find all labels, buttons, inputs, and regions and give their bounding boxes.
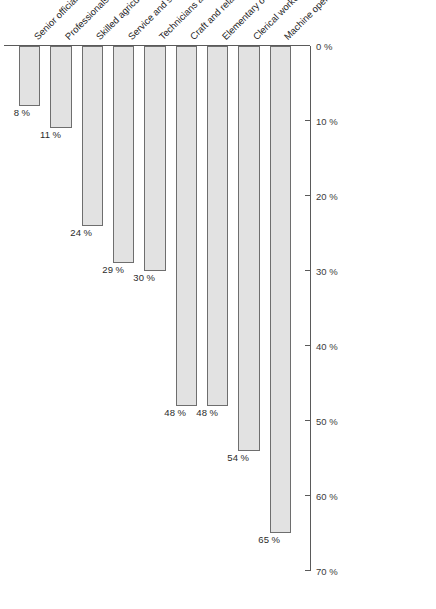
bar-chart-figure: 8 %11 %24 %29 %30 %48 %48 %54 %65 % 0 %1… bbox=[0, 0, 436, 609]
figure-rotator: 8 %11 %24 %29 %30 %48 %48 %54 %65 % 0 %1… bbox=[0, 0, 436, 609]
category-axis-labels: Senior officials and managersProfessiona… bbox=[14, 46, 426, 571]
category-label: Machine operators and assemblers bbox=[282, 0, 395, 42]
